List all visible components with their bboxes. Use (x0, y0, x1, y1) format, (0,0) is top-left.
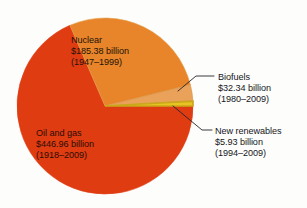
slice-label-nuclear-amount: $185.38 billion (71, 46, 129, 57)
slice-label-oil-and-gas: Oil and gas $446.96 billion (1918–2009) (36, 128, 94, 161)
slice-label-oil-and-gas-amount: $446.96 billion (36, 139, 94, 150)
pie-chart-figure: Nuclear $185.38 billion (1947–1999) Oil … (0, 0, 307, 208)
slice-label-biofuels-name: Biofuels (218, 72, 271, 83)
slice-label-biofuels-period: (1980–2009) (218, 94, 271, 105)
slice-label-oil-and-gas-name: Oil and gas (36, 128, 94, 139)
slice-label-nuclear-period: (1947–1999) (71, 57, 129, 68)
slice-label-new-renewables: New renewables $5.93 billion (1994–2009) (215, 126, 282, 159)
slice-label-new-renewables-amount: $5.93 billion (215, 137, 282, 148)
slice-label-biofuels: Biofuels $32.34 billion (1980–2009) (218, 72, 271, 105)
slice-label-new-renewables-name: New renewables (215, 126, 282, 137)
slice-label-oil-and-gas-period: (1918–2009) (36, 150, 94, 161)
slice-label-new-renewables-period: (1994–2009) (215, 148, 282, 159)
slice-label-biofuels-amount: $32.34 billion (218, 83, 271, 94)
slice-label-nuclear: Nuclear $185.38 billion (1947–1999) (71, 35, 129, 68)
slice-label-nuclear-name: Nuclear (71, 35, 129, 46)
